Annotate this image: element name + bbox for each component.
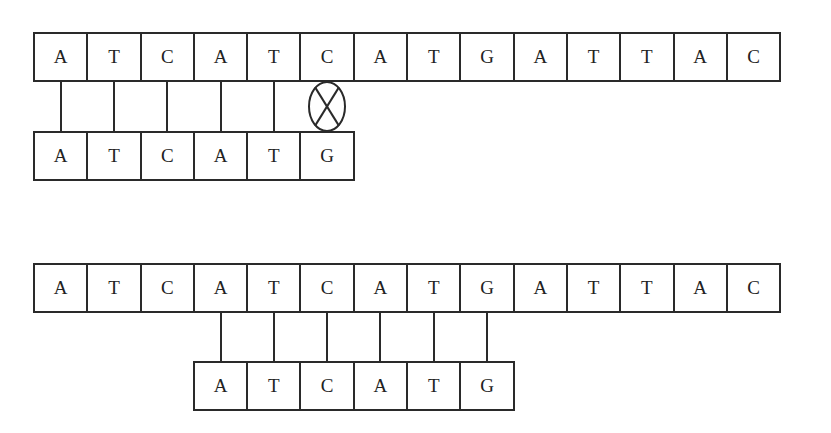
base-box-a: A [673,263,728,313]
base-box-t: T [566,263,621,313]
base-box-a: A [353,263,408,313]
base-box-c: C [726,263,781,313]
match-connector [486,313,488,361]
base-box-g: G [459,361,514,411]
base-box-g: G [459,263,514,313]
base-box-t: T [406,263,461,313]
base-box-a: A [353,361,408,411]
match-connector [433,313,435,361]
match-connector [220,313,222,361]
base-box-c: C [299,361,354,411]
base-box-a: A [193,361,248,411]
match-connector [273,313,275,361]
base-box-t: T [406,361,461,411]
base-box-a: A [513,263,568,313]
base-box-a: A [193,263,248,313]
alignment-section-match: ATCATCATGATTAC ATCATG [0,0,831,433]
base-box-c: C [140,263,195,313]
base-box-a: A [33,263,88,313]
query-strand: ATCATG [193,361,515,411]
match-connector [326,313,328,361]
base-box-t: T [246,361,301,411]
base-box-t: T [86,263,141,313]
base-box-c: C [299,263,354,313]
match-connector [379,313,381,361]
reference-strand: ATCATCATGATTAC [33,263,781,313]
base-box-t: T [619,263,674,313]
base-box-t: T [246,263,301,313]
